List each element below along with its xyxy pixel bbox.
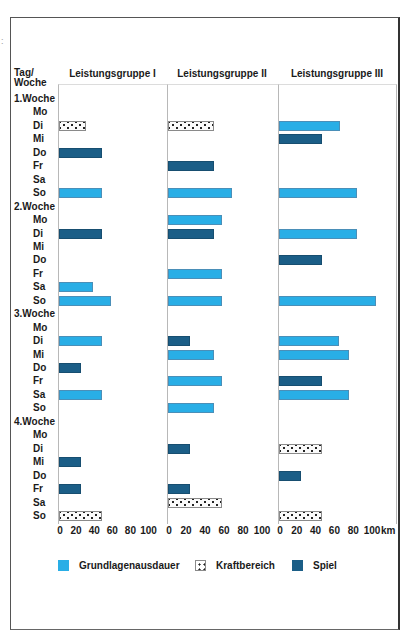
x-tick-label: 80: [125, 525, 136, 536]
bar-spiel: [279, 471, 301, 481]
day-label: So: [33, 510, 46, 522]
x-tick-label: 40: [199, 525, 210, 536]
day-label: So: [33, 295, 46, 307]
x-tick-label: 60: [107, 525, 118, 536]
bar-grund: [279, 336, 339, 346]
day-label: Do: [33, 470, 46, 482]
panel-leistungsgruppe-3: [278, 84, 397, 524]
x-tick-label: 20: [180, 525, 191, 536]
bar-spiel: [279, 255, 322, 265]
day-label: Do: [33, 254, 46, 266]
bar-spiel: [168, 161, 214, 171]
day-label: Di: [33, 228, 43, 240]
bar-grund: [59, 188, 102, 198]
group-title-3: Leistungsgruppe III: [277, 68, 397, 79]
bar-spiel: [59, 484, 81, 494]
bar-grund: [59, 390, 102, 400]
bar-spiel: [168, 484, 190, 494]
x-tick-label: 40: [89, 525, 100, 536]
x-tick-label: 80: [348, 525, 359, 536]
bar-spiel: [59, 148, 102, 158]
day-label: Di: [33, 120, 43, 132]
day-label: So: [33, 187, 46, 199]
legend-item-kraftbereich: Kraftbereich: [195, 560, 275, 571]
bar-grund: [279, 390, 349, 400]
day-label: Mi: [33, 241, 44, 253]
legend-swatch-light-blue-icon: [58, 560, 69, 571]
week-label: 1.Woche: [14, 93, 55, 105]
day-label: Sa: [33, 389, 45, 401]
bar-kraft: [279, 511, 322, 521]
legend-swatch-dark-blue-icon: [292, 560, 303, 571]
bar-spiel: [59, 229, 102, 239]
x-tick-label: 100: [140, 525, 157, 536]
bar-spiel: [279, 134, 322, 144]
day-label: Sa: [33, 174, 45, 186]
axis-label-tag-woche: Tag/ Woche: [14, 68, 47, 88]
day-label: Mi: [33, 456, 44, 468]
x-tick-label: 0: [277, 525, 283, 536]
scan-artifact: :: [1, 36, 4, 46]
x-tick-label: 20: [71, 525, 82, 536]
legend-label: Kraftbereich: [216, 560, 275, 571]
x-tick-label: 80: [237, 525, 248, 536]
bar-kraft: [59, 511, 102, 521]
bar-grund: [59, 336, 102, 346]
day-label: Fr: [33, 268, 43, 280]
day-label: Sa: [33, 281, 45, 293]
legend-item-spiel: Spiel: [292, 560, 337, 571]
bar-grund: [279, 188, 357, 198]
group-title-2: Leistungsgruppe II: [167, 68, 277, 79]
day-label: So: [33, 402, 46, 414]
x-tick-label: 0: [57, 525, 63, 536]
legend-swatch-dotted-icon: [195, 560, 206, 571]
bar-kraft: [168, 498, 222, 508]
day-label: Mo: [33, 322, 47, 334]
x-axis-unit: km: [381, 525, 395, 536]
bar-grund: [279, 350, 349, 360]
bar-spiel: [168, 229, 214, 239]
bar-spiel: [279, 376, 322, 386]
bar-grund: [279, 229, 357, 239]
x-tick-label: 100: [254, 525, 271, 536]
legend-label: Spiel: [313, 560, 337, 571]
bar-spiel: [59, 363, 81, 373]
x-tick-label: 60: [218, 525, 229, 536]
bar-spiel: [59, 457, 81, 467]
bar-kraft: [279, 444, 322, 454]
day-label: Fr: [33, 483, 43, 495]
panel-leistungsgruppe-2: [167, 84, 278, 524]
legend-label: Grundlagenausdauer: [79, 560, 180, 571]
bar-kraft: [168, 121, 214, 131]
panel-leistungsgruppe-1: [58, 84, 167, 524]
day-label: Fr: [33, 160, 43, 172]
axis-label-woche: Woche: [14, 78, 47, 88]
bar-grund: [168, 188, 232, 198]
bar-grund: [168, 403, 214, 413]
x-tick-label: 60: [329, 525, 340, 536]
day-label: Mo: [33, 429, 47, 441]
x-tick-label: 0: [166, 525, 172, 536]
bar-spiel: [168, 336, 190, 346]
bar-grund: [59, 296, 111, 306]
x-tick-label: 20: [291, 525, 302, 536]
day-label: Mi: [33, 133, 44, 145]
day-label: Sa: [33, 497, 45, 509]
x-tick-label: 100: [364, 525, 381, 536]
legend-item-grundlagenausdauer: Grundlagenausdauer: [58, 560, 180, 571]
day-label: Di: [33, 443, 43, 455]
bar-grund: [168, 215, 222, 225]
day-label: Fr: [33, 375, 43, 387]
week-label: 3.Woche: [14, 308, 55, 320]
day-label: Do: [33, 147, 46, 159]
bar-grund: [279, 296, 376, 306]
day-label: Do: [33, 362, 46, 374]
day-label: Di: [33, 335, 43, 347]
x-tick-label: 40: [310, 525, 321, 536]
bar-grund: [168, 350, 214, 360]
bar-spiel: [168, 444, 190, 454]
bar-grund: [59, 282, 93, 292]
day-label: Mo: [33, 214, 47, 226]
day-label: Mo: [33, 106, 47, 118]
bar-grund: [168, 296, 222, 306]
